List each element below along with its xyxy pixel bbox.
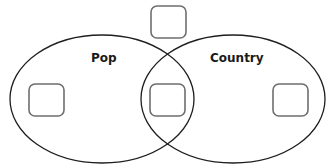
- region-neither-box[interactable]: [151, 6, 186, 38]
- pop-set-label: Pop: [91, 51, 117, 65]
- country-set-label: Country: [210, 51, 264, 65]
- region-both-box[interactable]: [150, 84, 185, 116]
- region-pop-only-box[interactable]: [29, 84, 64, 116]
- region-country-only-box[interactable]: [273, 84, 308, 116]
- venn-diagram: Pop Country: [0, 0, 331, 167]
